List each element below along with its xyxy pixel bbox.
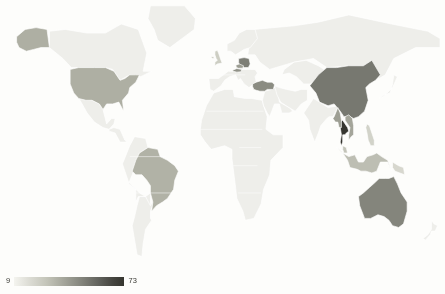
colorbar-max-label: 73: [128, 277, 137, 285]
choropleth-world-map-figure: 9 73: [0, 0, 445, 294]
colorbar-gradient: [14, 277, 124, 286]
world-map-canvas: [0, 0, 445, 294]
colorbar-min-label: 9: [6, 277, 10, 285]
colorbar-legend: 9 73: [6, 274, 137, 288]
